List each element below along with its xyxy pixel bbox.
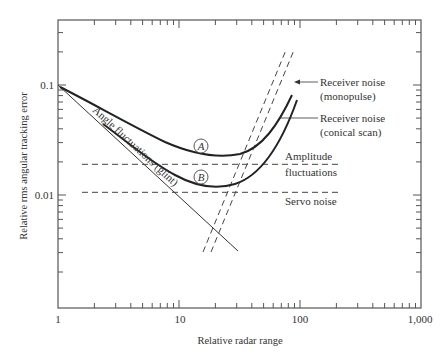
- recv-con-label-2: (conical scan): [320, 126, 382, 139]
- recv-con-label-1: Receiver noise: [320, 112, 385, 124]
- tracking-error-chart: 1 10 100 1,000 0.1 0.01 Relative radar r…: [0, 0, 448, 355]
- amplitude-label-2: fluctuations: [285, 166, 337, 178]
- recv-mono-label-1: Receiver noise: [320, 76, 385, 88]
- y-tick-0.01: 0.01: [35, 189, 54, 201]
- y-axis-title: Relative rms angular tracking error: [18, 92, 29, 240]
- svg-text:A: A: [197, 140, 205, 152]
- receiver-noise-monopulse-line: [211, 50, 294, 252]
- curve-a-label: A: [194, 139, 208, 153]
- arrow-icon: [294, 80, 300, 85]
- x-tick-10: 10: [175, 313, 187, 325]
- servo-label: Servo noise: [285, 195, 337, 207]
- x-axis-ticks: [94, 300, 415, 308]
- x-axis-title: Relative radar range: [197, 335, 282, 346]
- recv-mono-label-2: (monopulse): [320, 90, 376, 103]
- curve-b-label: B: [194, 170, 208, 184]
- y-axis-right-ticks: [413, 33, 421, 272]
- x-tick-1: 1: [55, 313, 61, 325]
- x-tick-100: 100: [292, 313, 309, 325]
- svg-text:B: B: [198, 171, 205, 183]
- x-axis-top-ticks: [94, 20, 415, 28]
- y-axis-ticks: [58, 33, 66, 272]
- y-tick-0.1: 0.1: [40, 79, 54, 91]
- glint-label: Angle fluctuations (glint): [90, 104, 181, 190]
- glint-line: [58, 85, 238, 251]
- amplitude-label-1: Amplitude: [285, 150, 332, 162]
- x-tick-1000: 1,000: [408, 313, 433, 325]
